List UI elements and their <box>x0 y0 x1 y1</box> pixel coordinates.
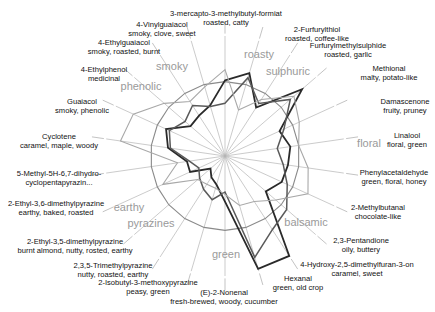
axis-label-vinylguaiacol: 4-Vinylguaiacolsmoky, clove, sweet <box>128 20 195 38</box>
series-1-polygon <box>169 78 290 258</box>
leader-line <box>318 236 327 244</box>
category-sulphuric: sulphuric <box>266 65 310 77</box>
leader-line <box>259 273 262 285</box>
category-pyrazines: pyrazines <box>127 217 174 229</box>
leader-line <box>336 207 347 212</box>
leader-line <box>318 68 327 76</box>
axis-label-isobutyl-methoxypyrazine: 2-Isobutyl-3-methoxypyrazinepeasy, green <box>98 278 198 296</box>
axis-label-guaiacol: Guaiacolsmoky, phenolic <box>55 97 109 115</box>
category-green: green <box>212 248 240 260</box>
axis-label-hexanal: Hexanalgreen, old crop <box>273 274 324 292</box>
series-0-polygon <box>166 73 302 269</box>
axis-label-phenylacetaldehyde: Phenylacetaldehydegreen, floral, honey <box>360 168 428 186</box>
axis-spoke <box>106 139 225 156</box>
axis-label-cyclotene: Cyclotenecaramel, maple, woody <box>20 132 98 150</box>
leader-line <box>291 43 297 53</box>
leader-line <box>103 207 114 212</box>
category-phenolic: phenolic <box>121 80 162 92</box>
axis-label-ethyl-35-dimethylpyrazine: 2-Ethyl-3,5-dimethylpyrazineburnt almond… <box>17 237 132 255</box>
axis-label-ethyl-36-dimethylpyrazine: 2-Ethyl-3,6-dimethylpyrazineearthy, bake… <box>8 199 104 217</box>
category-roasty: roasty <box>244 48 274 60</box>
leader-line <box>259 27 262 39</box>
axis-label-linalool: Linaloolfloral, green <box>387 131 427 149</box>
leader-line <box>336 100 347 105</box>
axis-label-methional: Methionalmalty, potato-like <box>361 64 418 82</box>
category-earthy: earthy <box>114 201 145 213</box>
category-floral: floral <box>357 137 381 149</box>
category-smoky: smoky <box>156 60 188 72</box>
axis-label-damascenone: Damascenonefruity, pruney <box>381 97 430 115</box>
axis-label-pentandione: 2,3-Pentandioneoily, buttery <box>333 236 389 254</box>
axis-spoke <box>225 139 344 156</box>
axis-label-trimethylpyrazine: 2,3,5-Trimethylpyrazinenutty, roasted, e… <box>73 261 152 279</box>
leader-line <box>291 259 297 269</box>
axis-spoke <box>191 41 225 156</box>
axis-label-cyclopentapyrazine: 5-Methyl-5H-6,7-dihydro-cyclopentapyrazi… <box>17 169 101 187</box>
category-balsamic: balsamic <box>284 216 327 228</box>
axis-label-furfurylmethylsulphide: Furfurylmethylsulphideroasted, garlic <box>310 41 386 59</box>
axis-label-2-methylbutanal: 2-Methylbutanalchocolate-like <box>351 203 405 221</box>
leader-line <box>152 259 158 269</box>
leader-line <box>346 173 358 175</box>
axis-label-ethylguaiacol: 4-Ethylguaiacolsmoky, roasted, burnt <box>88 38 160 56</box>
